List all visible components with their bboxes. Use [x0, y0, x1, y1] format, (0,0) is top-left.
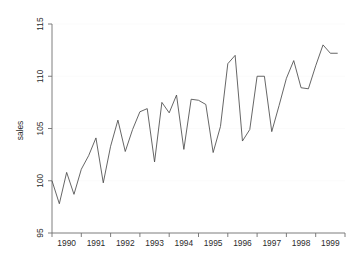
x-tick-label-1994: 1994: [175, 238, 194, 248]
y-tick-label-110: 110: [35, 69, 45, 83]
y-tick-label-105: 105: [35, 121, 45, 135]
y-tick-label-95: 95: [35, 228, 45, 238]
y-tick-label-100: 100: [35, 173, 45, 187]
chart-figure: 95100105110115 sales 1990199119921993199…: [0, 0, 362, 269]
x-tick-label-1996: 1996: [233, 238, 252, 248]
x-tick-label-1991: 1991: [87, 238, 106, 248]
x-tick-label-1995: 1995: [204, 238, 223, 248]
x-tick-label-1992: 1992: [116, 238, 135, 248]
x-tick-label-1990: 1990: [57, 238, 76, 248]
sales-line-chart: 95100105110115 sales 1990199119921993199…: [0, 0, 362, 269]
x-tick-label-1998: 1998: [292, 238, 311, 248]
chart-background: [0, 0, 362, 269]
y-tick-label-115: 115: [35, 17, 45, 31]
y-axis-title: sales: [15, 121, 25, 141]
x-tick-label-1993: 1993: [145, 238, 164, 248]
x-tick-label-1997: 1997: [262, 238, 281, 248]
x-tick-label-1999: 1999: [321, 238, 340, 248]
